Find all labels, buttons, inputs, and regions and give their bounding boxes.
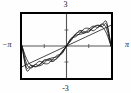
axis-label-bottom: -3 xyxy=(0,85,131,93)
plot-area xyxy=(20,12,113,80)
figure-container: 3 -3 −π π xyxy=(0,0,131,93)
axis-label-top: 3 xyxy=(0,1,131,9)
axis-label-right: π xyxy=(125,41,129,49)
fourier-series-plot xyxy=(20,12,113,80)
axis-label-left: −π xyxy=(2,41,11,49)
